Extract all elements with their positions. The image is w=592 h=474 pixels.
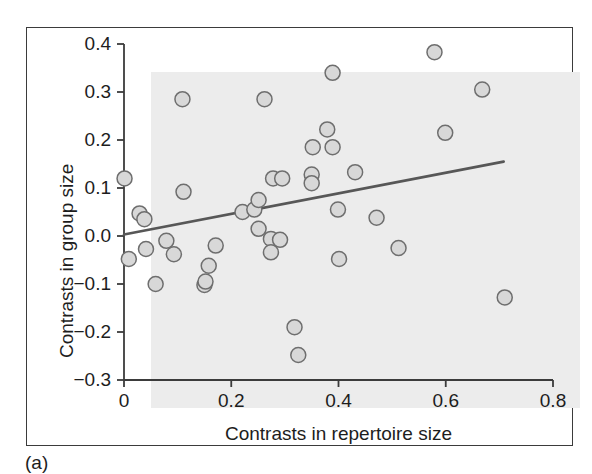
data-point bbox=[257, 92, 272, 107]
data-point bbox=[427, 45, 442, 60]
data-point bbox=[117, 171, 132, 186]
data-point bbox=[251, 221, 266, 236]
data-point bbox=[251, 193, 266, 208]
y-tick-label: 0.3 bbox=[51, 82, 111, 101]
x-tick-label: 0.4 bbox=[309, 391, 369, 410]
data-point bbox=[438, 125, 453, 140]
y-tick-label: −0.3 bbox=[51, 370, 111, 389]
data-point bbox=[497, 290, 512, 305]
data-point bbox=[201, 258, 216, 273]
data-point bbox=[332, 252, 347, 267]
data-point bbox=[159, 233, 174, 248]
data-point bbox=[325, 65, 340, 80]
data-point bbox=[475, 82, 490, 97]
x-tick-label: 0.2 bbox=[201, 391, 261, 410]
data-point bbox=[166, 247, 181, 262]
data-point bbox=[198, 274, 213, 289]
x-tick-label: 0.8 bbox=[523, 391, 583, 410]
data-points-group bbox=[117, 45, 512, 363]
data-point bbox=[138, 241, 153, 256]
data-point bbox=[369, 210, 384, 225]
data-point bbox=[348, 165, 363, 180]
data-point bbox=[137, 212, 152, 227]
data-point bbox=[287, 320, 302, 335]
data-point bbox=[291, 348, 306, 363]
figure-root: −0.3−0.2−0.10.00.10.20.30.400.20.40.60.8… bbox=[0, 0, 592, 474]
data-point bbox=[273, 232, 288, 247]
panel-caption: (a) bbox=[25, 452, 48, 474]
data-point bbox=[208, 238, 223, 253]
y-axis-label: Contrasts in group size bbox=[56, 164, 78, 358]
data-point bbox=[175, 92, 190, 107]
x-tick-label: 0.6 bbox=[416, 391, 476, 410]
data-point bbox=[320, 122, 335, 137]
x-tick-label: 0 bbox=[94, 391, 154, 410]
data-point bbox=[305, 140, 320, 155]
data-point bbox=[275, 171, 290, 186]
y-tick-label: 0.2 bbox=[51, 130, 111, 149]
data-point bbox=[325, 140, 340, 155]
data-point bbox=[148, 277, 163, 292]
data-point bbox=[121, 252, 136, 267]
data-point bbox=[330, 202, 345, 217]
data-point bbox=[176, 184, 191, 199]
data-point bbox=[391, 241, 406, 256]
data-point bbox=[304, 176, 319, 191]
x-axis-label: Contrasts in repertoire size bbox=[124, 423, 553, 445]
y-tick-label: 0.4 bbox=[51, 34, 111, 53]
